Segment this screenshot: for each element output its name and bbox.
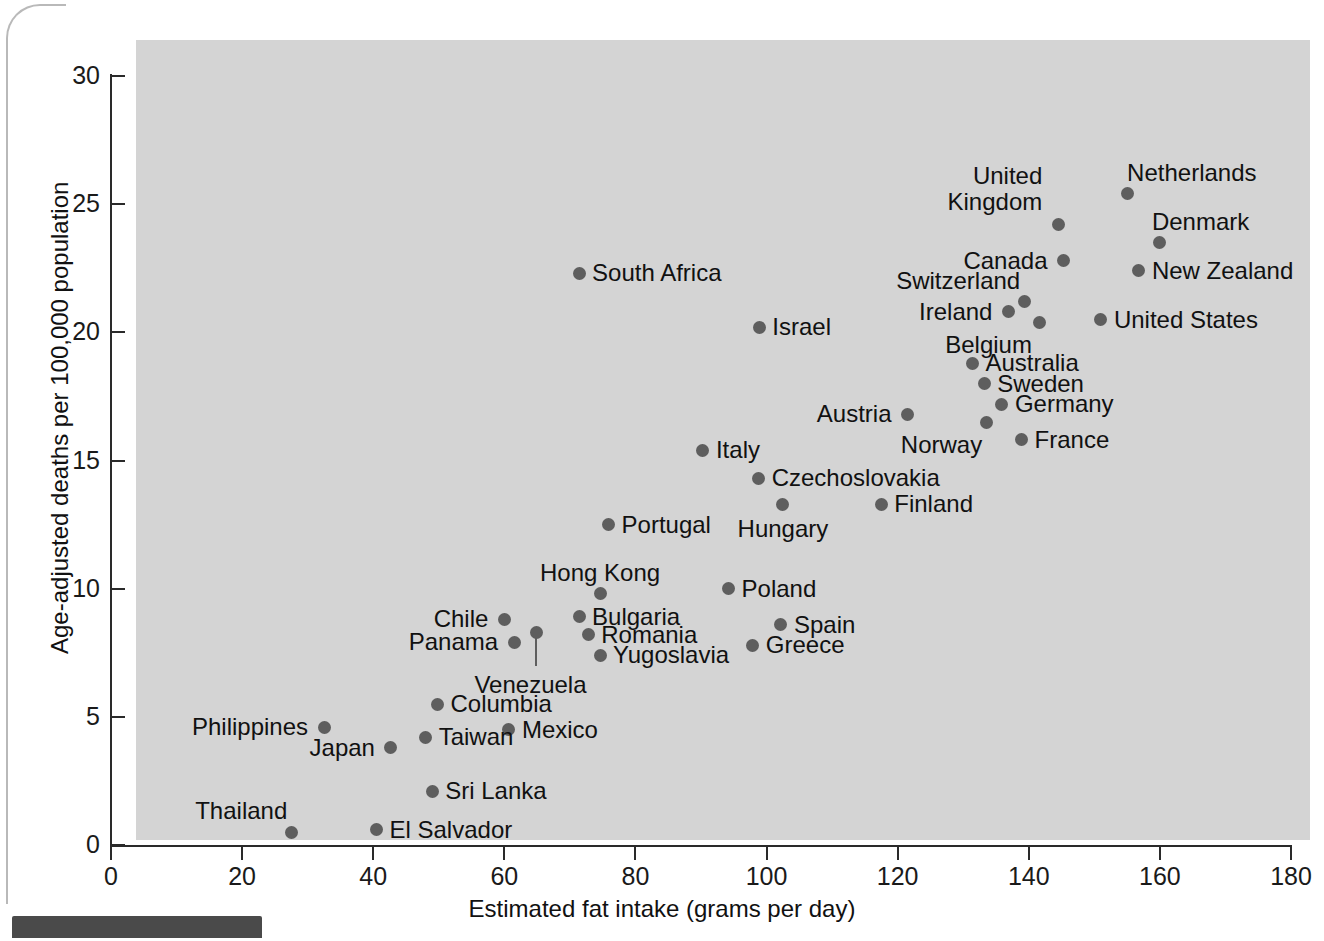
x-tick-label: 140 xyxy=(999,862,1059,891)
data-point-label: Thailand xyxy=(195,798,287,824)
x-tick-mark xyxy=(897,847,899,860)
data-point-label: New Zealand xyxy=(1152,258,1293,284)
scatter-chart-figure: 051015202530020406080100120140160180 Net… xyxy=(0,0,1324,941)
data-point-label: Japan xyxy=(310,735,375,761)
data-point[interactable] xyxy=(573,267,586,280)
x-tick-mark xyxy=(372,847,374,860)
data-point[interactable] xyxy=(980,416,993,429)
x-tick-mark xyxy=(1159,847,1161,860)
data-point[interactable] xyxy=(753,321,766,334)
data-point[interactable] xyxy=(1018,295,1031,308)
data-point-label: Israel xyxy=(772,314,831,340)
data-point-label: Yugoslavia xyxy=(613,642,729,668)
x-tick-label: 80 xyxy=(605,862,665,891)
data-point[interactable] xyxy=(1121,187,1134,200)
data-point[interactable] xyxy=(1052,218,1065,231)
data-point-label: Czechoslovakia xyxy=(772,465,940,491)
data-point-label: Philippines xyxy=(192,714,308,740)
data-point[interactable] xyxy=(573,610,586,623)
data-point[interactable] xyxy=(426,785,439,798)
data-point[interactable] xyxy=(582,628,595,641)
data-point-label: Mexico xyxy=(522,717,598,743)
data-point-label: Denmark xyxy=(1152,209,1249,235)
data-point[interactable] xyxy=(594,649,607,662)
x-tick-mark xyxy=(110,847,112,860)
x-tick-mark xyxy=(503,847,505,860)
data-point-label: Germany xyxy=(1015,391,1114,417)
data-point[interactable] xyxy=(419,731,432,744)
y-tick-mark xyxy=(112,844,125,846)
data-point[interactable] xyxy=(508,636,521,649)
y-axis-title: Age-adjusted deaths per 100,000 populati… xyxy=(46,234,74,654)
data-point-label: Hong Kong xyxy=(540,560,660,586)
data-point[interactable] xyxy=(318,721,331,734)
x-tick-mark xyxy=(766,847,768,860)
x-tick-mark xyxy=(1028,847,1030,860)
data-point-label: United States xyxy=(1114,307,1258,333)
data-point-label: Poland xyxy=(742,576,817,602)
data-point-label: UnitedKingdom xyxy=(948,163,1043,215)
data-point-label: Ireland xyxy=(919,299,992,325)
data-point[interactable] xyxy=(746,639,759,652)
x-axis-line xyxy=(110,845,1292,847)
data-point-label: Switzerland xyxy=(896,268,1020,294)
data-point[interactable] xyxy=(594,587,607,600)
y-tick-label: 5 xyxy=(56,702,100,731)
data-point-label: Netherlands xyxy=(1127,160,1256,186)
y-tick-mark xyxy=(112,331,125,333)
data-point-label: Finland xyxy=(894,491,973,517)
data-point[interactable] xyxy=(530,626,543,639)
y-tick-mark xyxy=(112,75,125,77)
data-point-label: El Salvador xyxy=(390,817,513,843)
x-tick-mark xyxy=(1290,847,1292,860)
data-point[interactable] xyxy=(776,498,789,511)
data-point[interactable] xyxy=(901,408,914,421)
y-tick-mark xyxy=(112,588,125,590)
x-tick-mark xyxy=(634,847,636,860)
x-tick-label: 20 xyxy=(212,862,272,891)
data-point-label: South Africa xyxy=(592,260,721,286)
y-tick-mark xyxy=(112,203,125,205)
data-point-label: Italy xyxy=(716,437,760,463)
x-tick-label: 120 xyxy=(868,862,928,891)
data-point-label: Taiwan xyxy=(439,724,514,750)
data-point[interactable] xyxy=(431,698,444,711)
x-axis-title: Estimated fat intake (grams per day) xyxy=(0,895,1324,923)
y-tick-mark xyxy=(112,460,125,462)
y-tick-label: 30 xyxy=(56,61,100,90)
data-point[interactable] xyxy=(285,826,298,839)
data-point-label: France xyxy=(1035,427,1110,453)
data-point-label: Hungary xyxy=(738,516,829,542)
data-point-label: Norway xyxy=(901,432,982,458)
data-point[interactable] xyxy=(1033,316,1046,329)
x-tick-label: 0 xyxy=(81,862,141,891)
data-point-label: Austria xyxy=(817,401,892,427)
data-point[interactable] xyxy=(875,498,888,511)
data-point-label: Columbia xyxy=(450,691,551,717)
x-tick-label: 60 xyxy=(474,862,534,891)
x-tick-mark xyxy=(241,847,243,860)
data-point-label: Greece xyxy=(766,632,845,658)
data-point-label: Sri Lanka xyxy=(445,778,546,804)
x-tick-label: 180 xyxy=(1261,862,1321,891)
y-tick-label: 0 xyxy=(56,830,100,859)
data-point[interactable] xyxy=(1057,254,1070,267)
data-point[interactable] xyxy=(498,613,511,626)
x-tick-label: 100 xyxy=(737,862,797,891)
x-tick-label: 160 xyxy=(1130,862,1190,891)
data-point[interactable] xyxy=(966,357,979,370)
data-point[interactable] xyxy=(978,377,991,390)
x-tick-label: 40 xyxy=(343,862,403,891)
data-point-label: Portugal xyxy=(622,512,711,538)
y-tick-mark xyxy=(112,716,125,718)
data-point[interactable] xyxy=(995,398,1008,411)
data-point-label: Panama xyxy=(409,629,498,655)
